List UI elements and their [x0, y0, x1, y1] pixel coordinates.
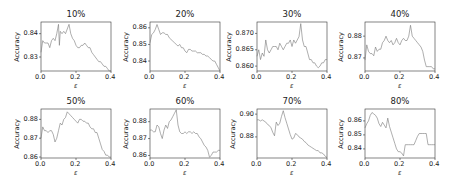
- x-tick-label: 0.2: [394, 160, 404, 168]
- y-axis-label: Accuracy: [337, 114, 345, 154]
- accuracy-line: [365, 113, 435, 156]
- y-tick-label: 0.86: [348, 116, 362, 124]
- x-axis-label: ε: [398, 169, 402, 177]
- x-tick-label: 0.4: [429, 160, 439, 168]
- y-tick-label: 0.84: [348, 144, 362, 152]
- x-tick-label: 0.0: [359, 160, 369, 168]
- subplot-axes: [0, 0, 450, 184]
- y-tick-label: 0.85: [348, 130, 362, 138]
